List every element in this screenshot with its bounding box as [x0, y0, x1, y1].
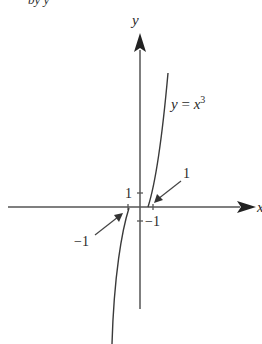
callout-positive: 1 [154, 166, 190, 203]
y-axis: y [130, 12, 146, 309]
callout-negative: −1 [74, 213, 123, 249]
curve-label: y = x3 [169, 94, 205, 112]
y-axis-label: y [130, 12, 139, 28]
y-tick-label-neg1: −1 [145, 214, 160, 229]
y-axis-arrow-icon [134, 33, 146, 52]
curve-left-branch [112, 208, 129, 344]
callout-arrow-icon [114, 213, 123, 222]
callout-label-neg1: −1 [74, 234, 89, 249]
callout-arrow-icon [154, 194, 163, 203]
cubic-function-diagram: by y y x 1 −1 y = x3 1 −1 [0, 0, 262, 344]
callout-label-1: 1 [183, 166, 190, 181]
y-tick-label-1: 1 [125, 186, 132, 201]
x-axis-label: x [256, 199, 262, 215]
caption-fragment: by y [28, 0, 50, 7]
x-axis: x [8, 199, 262, 215]
curve-right-branch [148, 73, 168, 207]
